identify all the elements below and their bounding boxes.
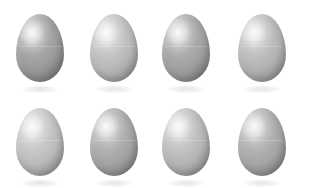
egg-cell — [74, 0, 154, 94]
egg-base-shadow — [244, 86, 280, 93]
egg-base-shadow — [168, 180, 204, 187]
egg-row-bottom — [0, 94, 320, 188]
egg-3 — [162, 14, 210, 82]
egg-base-shadow — [244, 180, 280, 187]
egg-seam — [93, 46, 135, 47]
egg-seam — [241, 140, 283, 141]
egg-grid — [0, 0, 320, 188]
egg-seam — [241, 46, 283, 47]
egg-cell — [0, 0, 80, 94]
egg-5 — [16, 108, 64, 176]
egg-cell — [222, 94, 302, 188]
egg-seam — [165, 140, 207, 141]
egg-base-shadow — [96, 180, 132, 187]
egg-seam — [19, 46, 61, 47]
egg-cell — [0, 94, 80, 188]
egg-base-shadow — [22, 86, 58, 93]
egg-cell — [146, 0, 226, 94]
egg-2 — [90, 14, 138, 82]
egg-base-shadow — [96, 86, 132, 93]
egg-cell — [74, 94, 154, 188]
egg-seam — [93, 140, 135, 141]
egg-8 — [238, 108, 286, 176]
egg-seam — [19, 140, 61, 141]
egg-7 — [162, 108, 210, 176]
egg-cell — [146, 94, 226, 188]
egg-cell — [222, 0, 302, 94]
egg-base-shadow — [168, 86, 204, 93]
egg-seam — [165, 46, 207, 47]
egg-6 — [90, 108, 138, 176]
egg-4 — [238, 14, 286, 82]
egg-base-shadow — [22, 180, 58, 187]
egg-row-top — [0, 0, 320, 94]
egg-1 — [16, 14, 64, 82]
